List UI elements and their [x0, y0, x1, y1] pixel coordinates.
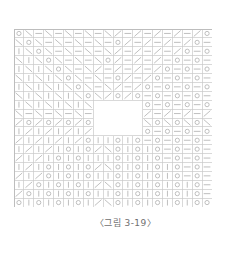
grid-cell-fslash: [174, 31, 181, 37]
grid-cell-bslash: [105, 200, 112, 206]
grid-cell-circle: [27, 192, 31, 196]
grid-cell-circle: [195, 94, 199, 98]
grid-cell-circle: [195, 156, 199, 160]
grid-cell-circle: [146, 103, 150, 107]
grid-cell-bslash: [16, 39, 23, 45]
grid-cell-bslash: [85, 48, 92, 54]
grid-cell-fslash: [16, 137, 23, 143]
grid-cell-fslash: [26, 146, 33, 152]
grid-cell-circle: [27, 40, 31, 44]
grid-cell-circle: [76, 85, 80, 89]
grid-cell-circle: [195, 147, 199, 151]
grid-cell-fslash: [35, 155, 42, 161]
grid-cell-bslash: [55, 111, 62, 117]
grid-cell-fslash: [26, 164, 33, 170]
grid-cell-bslash: [26, 48, 33, 54]
grid-cell-circle: [17, 31, 21, 35]
grid-cell-circle: [76, 156, 80, 160]
grid-cell-circle: [116, 40, 120, 44]
grid-cell-bslash: [26, 84, 33, 90]
grid-cell-bslash: [85, 66, 92, 72]
grid-cell-bslash: [26, 31, 33, 37]
grid-cell-circle: [116, 183, 120, 187]
grid-cell-bslash: [95, 57, 102, 63]
grid-cell-fslash: [26, 128, 33, 134]
grid-cell-bslash: [16, 57, 23, 63]
grid-cell-bslash: [55, 75, 62, 81]
grid-cell-circle: [116, 76, 120, 80]
grid-cell-bslash: [105, 182, 112, 188]
grid-cell-circle: [185, 103, 189, 107]
grid-cell-circle: [155, 183, 159, 187]
grid-cell-bslash: [85, 84, 92, 90]
grid-cell-circle: [86, 138, 90, 142]
grid-cell-bslash: [65, 31, 72, 37]
grid-cell-bslash: [45, 66, 52, 72]
grid-cell-circle: [175, 138, 179, 142]
grid-cell-fslash: [134, 57, 141, 63]
grid-cell-circle: [116, 174, 120, 178]
grid-cell-bslash: [16, 75, 23, 81]
grid-cell-circle: [56, 67, 60, 71]
grid-cell-circle: [165, 103, 169, 107]
grid-cell-circle: [195, 138, 199, 142]
grid-cell-fslash: [55, 137, 62, 143]
grid-cell-bslash: [105, 164, 112, 170]
grid-cell-circle: [185, 49, 189, 53]
grid-cell-circle: [205, 67, 209, 71]
figure-root: 〈그림 3-19〉: [0, 0, 251, 253]
grid-cell-fslash: [65, 128, 72, 134]
grid-cell-fslash: [35, 137, 42, 143]
grid-cell-bslash: [105, 48, 112, 54]
grid-cell-fslash: [164, 39, 171, 45]
grid-cell-fslash: [95, 182, 102, 188]
grid-cell-circle: [47, 58, 51, 62]
grid-cell-fslash: [35, 173, 42, 179]
grid-cell-circle: [195, 192, 199, 196]
grid-cell-fslash: [134, 31, 141, 37]
grid-cell-circle: [37, 49, 41, 53]
grid-cell-fslash: [115, 57, 122, 63]
grid-cell-circle: [155, 138, 159, 142]
grid-cell-circle: [136, 192, 140, 196]
grid-cell-bslash: [75, 111, 82, 117]
grid-cell-circle: [116, 138, 120, 142]
grid-cell-bslash: [65, 102, 72, 108]
grid-cell-fslash: [184, 111, 191, 117]
grid-cell-bslash: [45, 48, 52, 54]
grid-cell-fslash: [75, 120, 82, 126]
grid-cell-circle: [155, 165, 159, 169]
grid-cell-bslash: [75, 75, 82, 81]
grid-cell-bslash: [16, 93, 23, 99]
grid-cell-fslash: [45, 146, 52, 152]
grid-cell-bslash: [55, 93, 62, 99]
grid-cell-fslash: [164, 111, 171, 117]
grid-cell-circle: [136, 200, 140, 204]
grid-cell-circle: [86, 120, 90, 124]
grid-cell-circle: [136, 138, 140, 142]
grid-cell-bslash: [95, 93, 102, 99]
grid-cell-circle: [185, 85, 189, 89]
grid-cell-fslash: [194, 31, 201, 37]
grid-cell-circle: [195, 120, 199, 124]
grid-cell-fslash: [115, 31, 122, 37]
grid-cell-circle: [116, 165, 120, 169]
grid-cell-circle: [155, 200, 159, 204]
grid-cell-bslash: [85, 102, 92, 108]
grid-cell-bslash: [144, 120, 151, 126]
grid-cell-fslash: [95, 164, 102, 170]
grid-cell-circle: [195, 200, 199, 204]
grid-cell-circle: [116, 147, 120, 151]
grid-cell-bslash: [95, 75, 102, 81]
grid-cell-bslash: [26, 66, 33, 72]
grid-cell-circle: [66, 165, 70, 169]
grid-cell-circle: [185, 67, 189, 71]
grid-cell-bslash: [35, 93, 42, 99]
grid-cell-circle: [76, 200, 80, 204]
grid-cell-circle: [86, 192, 90, 196]
grid-cell-circle: [195, 165, 199, 169]
grid-cell-bslash: [85, 31, 92, 37]
grid-cell-circle: [116, 156, 120, 160]
grid-cell-fslash: [115, 48, 122, 54]
grid-cell-circle: [155, 120, 159, 124]
